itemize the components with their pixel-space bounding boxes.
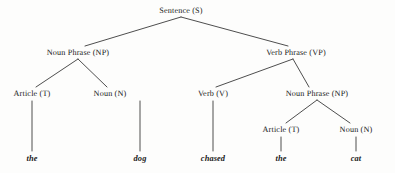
tree-edge-group xyxy=(32,17,356,151)
tree-node-np2: Noun Phrase (NP) xyxy=(286,89,348,98)
tree-edge-vp-to-np2 xyxy=(293,59,309,87)
tree-leaf-dog: dog xyxy=(134,154,147,163)
tree-node-v: Verb (V) xyxy=(198,89,228,98)
tree-leaf-cat: cat xyxy=(351,154,362,163)
tree-node-s: Sentence (S) xyxy=(159,6,202,15)
tree-node-np1: Noun Phrase (NP) xyxy=(47,48,109,57)
tree-edge-s-to-vp xyxy=(181,17,288,46)
tree-edge-np2-to-t2 xyxy=(286,100,317,123)
tree-node-t2: Article (T) xyxy=(263,125,300,134)
syntax-tree-diagram: Sentence (S)Noun Phrase (NP)Verb Phrase … xyxy=(0,0,395,173)
tree-edge-np1-to-n1 xyxy=(78,59,107,87)
tree-node-vp: Verb Phrase (VP) xyxy=(266,48,326,57)
tree-node-n1: Noun (N) xyxy=(94,89,127,98)
tree-leaf-the-1: the xyxy=(26,154,37,163)
tree-edge-np2-to-n2 xyxy=(317,100,350,123)
tree-edges-layer xyxy=(0,0,395,173)
tree-edge-vp-to-v xyxy=(216,59,293,87)
tree-node-t1: Article (T) xyxy=(14,89,51,98)
tree-leaf-the-2: the xyxy=(275,154,286,163)
tree-leaf-chased: chased xyxy=(201,154,225,163)
tree-edge-s-to-np1 xyxy=(85,17,181,46)
tree-node-n2: Noun (N) xyxy=(340,125,373,134)
tree-edge-np1-to-t1 xyxy=(36,59,78,87)
